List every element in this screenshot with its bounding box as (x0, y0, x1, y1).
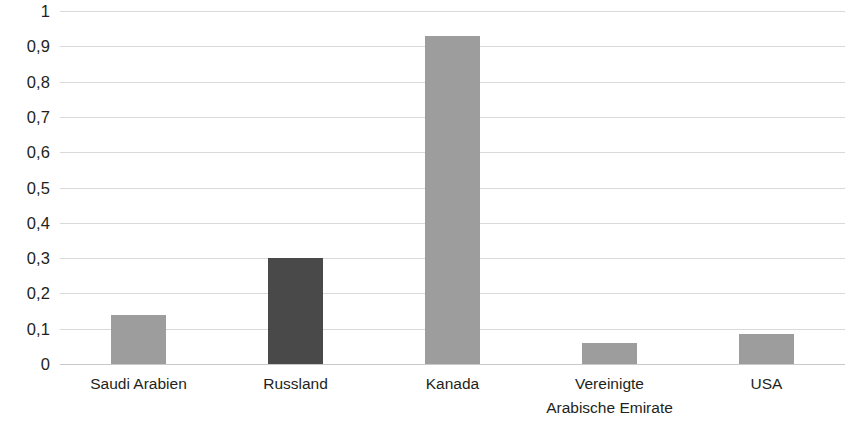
y-axis-tick-label: 0,1 (0, 321, 50, 338)
y-axis-tick-label: 0,3 (0, 250, 50, 267)
x-axis-tick-label-line: Arabische Emirate (525, 396, 695, 420)
y-axis-tick-label: 1 (0, 3, 50, 20)
x-axis-tick-label-line: Kanada (426, 375, 479, 392)
y-axis-tick-label: 0,7 (0, 109, 50, 126)
gridline (60, 364, 845, 365)
x-axis-tick-label: Russland (211, 372, 381, 396)
bar (582, 343, 637, 364)
bar (111, 315, 166, 364)
x-axis-tick-label-line: Saudi Arabien (90, 375, 187, 392)
x-axis-tick-label: VereinigteArabische Emirate (525, 372, 695, 420)
y-axis-tick-label: 0,2 (0, 285, 50, 302)
y-axis-tick-label: 0,5 (0, 180, 50, 197)
x-axis: Saudi ArabienRusslandKanadaVereinigteAra… (60, 372, 845, 427)
y-axis-tick-label: 0 (0, 356, 50, 373)
y-axis-tick-label: 0,8 (0, 74, 50, 91)
y-axis-tick-label: 0,6 (0, 144, 50, 161)
bar (739, 334, 794, 364)
x-axis-tick-label-line: USA (751, 375, 783, 392)
x-axis-tick-label: Kanada (368, 372, 538, 396)
bar-chart: 10,90,80,70,60,50,40,30,20,10 Saudi Arab… (0, 0, 848, 427)
bars-layer (60, 11, 845, 364)
y-axis-tick-label: 0,4 (0, 215, 50, 232)
y-axis-tick-label: 0,9 (0, 38, 50, 55)
x-axis-tick-label-line: Vereinigte (575, 375, 644, 392)
y-axis: 10,90,80,70,60,50,40,30,20,10 (0, 0, 50, 427)
x-axis-tick-label: USA (682, 372, 848, 396)
x-axis-tick-label-line: Russland (263, 375, 328, 392)
bar (268, 258, 323, 364)
bar (425, 36, 480, 364)
x-axis-tick-label: Saudi Arabien (54, 372, 224, 396)
